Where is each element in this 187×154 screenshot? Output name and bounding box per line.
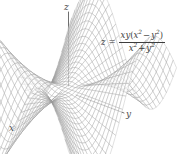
z-axis-label: z [64, 3, 69, 12]
equation-equals-sign: = [108, 37, 115, 47]
equation-numerator: xy(x2−y2) [119, 31, 165, 41]
denominator-term2-exponent: 2 [151, 42, 155, 48]
equation-fraction: xy(x2−y2) x2+y2 [119, 31, 165, 54]
numerator-prefix: xy [121, 30, 131, 40]
surface-mesh [0, 0, 177, 154]
surface-plot-canvas [0, 0, 187, 154]
x-axis-label: x [9, 124, 14, 133]
denominator-operator: + [137, 43, 146, 53]
equation-annotation: z = xy(x2−y2) x2+y2 [101, 31, 165, 54]
equation-lhs: z [101, 37, 105, 47]
numerator-close-paren: ) [160, 30, 163, 40]
numerator-operator: − [142, 30, 151, 40]
equation-denominator: x2+y2 [127, 44, 157, 54]
y-axis-label: y [126, 110, 131, 119]
surface-plot-figure: x y z z = xy(x2−y2) x2+y2 [0, 0, 187, 154]
